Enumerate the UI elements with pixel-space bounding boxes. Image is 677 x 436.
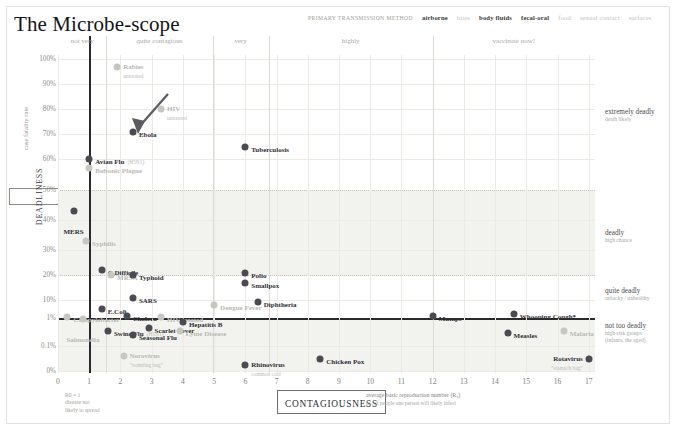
data-point-smallpox[interactable] xyxy=(242,279,249,286)
data-point-tuberculosis[interactable] xyxy=(242,143,249,150)
gridline-vertical xyxy=(339,55,340,373)
data-point-mumps[interactable] xyxy=(429,312,436,319)
data-point-rabies[interactable] xyxy=(114,63,121,70)
data-point-sars[interactable] xyxy=(129,294,136,301)
gridline-horizontal xyxy=(58,250,595,251)
data-label-syphilis: Syphilis xyxy=(92,232,116,250)
gridline-vertical xyxy=(464,55,465,373)
y-tick-label: 60% xyxy=(22,155,56,163)
legend-item-bites[interactable]: bites xyxy=(457,14,470,21)
y-tick-label: 0% xyxy=(22,367,56,375)
gridline-horizontal xyxy=(58,220,595,221)
data-label-name: Salmonella xyxy=(66,336,99,344)
gridline-vertical xyxy=(308,55,309,373)
data-point-norovirus[interactable] xyxy=(120,353,127,360)
legend-item-airborne[interactable]: airborne xyxy=(422,14,448,21)
deadliness-annotation-1: deadlyhigh chance xyxy=(605,229,632,244)
x-tick-label: 17 xyxy=(581,377,597,386)
ebola-pointer-arrow xyxy=(128,90,174,140)
data-label-name: Syphilis xyxy=(92,240,116,248)
x-tick-label: 9 xyxy=(331,377,347,386)
y-tick-label: 20% xyxy=(22,271,56,279)
data-label-name: MERS xyxy=(63,228,83,236)
legend-item-fecal-oral[interactable]: fecal-oral xyxy=(521,14,549,21)
contagiousness-band-label-2: very xyxy=(213,37,269,45)
y-axis-title: case fatality rate xyxy=(22,107,29,150)
x-tick-label: 1 xyxy=(81,377,97,386)
data-point-seasonal-flu[interactable] xyxy=(129,331,136,338)
deadliness-annotation-sub: high-risk groups(infants, the aged) xyxy=(605,330,646,344)
y-tick-label: 100% xyxy=(22,55,56,63)
legend-item-food[interactable]: food xyxy=(558,14,571,21)
data-label-typhoid: Typhoid xyxy=(139,266,164,284)
data-point-cholera[interactable] xyxy=(123,312,130,319)
data-point-polio[interactable] xyxy=(242,269,249,276)
y-tick-label: 80% xyxy=(22,105,56,113)
deadliness-annotation-sub: unlucky / unhealthy xyxy=(605,295,649,302)
x-axis-note-line1: average basic reproduction number (R₀) xyxy=(366,392,460,400)
data-point-campylobacter[interactable] xyxy=(64,313,71,320)
data-label-name: Typhoid xyxy=(139,274,164,282)
data-label-measles: Measles xyxy=(514,324,538,342)
y-tick-label: 70% xyxy=(22,130,56,138)
data-label-rotavirus: Rotavirus"stomach bug" xyxy=(551,347,583,371)
deadliness-annotation-label: not too deadly xyxy=(605,322,646,330)
contagiousness-band-label-3: highly xyxy=(269,37,433,45)
data-label-name: Chicken Pox xyxy=(326,358,364,366)
data-point-mrsa[interactable] xyxy=(108,272,115,279)
data-point-measles[interactable] xyxy=(504,329,511,336)
y-tick-label: 10% xyxy=(22,296,56,304)
gridline-vertical xyxy=(370,55,371,373)
legend-item-surfaces[interactable]: surfaces xyxy=(629,14,652,21)
data-label-name: Lyme Disease xyxy=(186,330,227,338)
data-point-c-difficile[interactable] xyxy=(98,267,105,274)
data-label-name: Rotavirus xyxy=(553,355,583,363)
data-label-bubonic-plague: Bubonic Plague xyxy=(95,159,142,177)
data-point-chicken-pox[interactable] xyxy=(317,356,324,363)
x-tick-label: 13 xyxy=(456,377,472,386)
data-label-name: Smallpox xyxy=(251,282,279,290)
contagiousness-band-label-0: not very xyxy=(58,37,106,45)
data-label-seasonal-flu: Seasonal Flu xyxy=(139,326,177,344)
transmission-legend: PRIMARY TRANSMISSION METHOD airbornebite… xyxy=(308,14,651,26)
data-label-smallpox: Smallpox xyxy=(251,274,279,292)
data-point-typhoid[interactable] xyxy=(129,272,136,279)
data-label-name: Tuberculosis xyxy=(251,146,289,154)
data-point-salmonella[interactable] xyxy=(79,316,86,323)
x-axis-note: average basic reproduction number (R₀) n… xyxy=(366,392,460,407)
deadliness-annotation-3: not too deadlyhigh-risk groups(infants, … xyxy=(605,322,646,344)
data-label-name: Rhinovirus xyxy=(251,361,284,369)
data-point-malaria[interactable] xyxy=(560,327,567,334)
data-point-rhinovirus[interactable] xyxy=(242,362,249,369)
data-point-rotavirus[interactable] xyxy=(585,356,592,363)
data-label-diphtheria: Diphtheria xyxy=(264,293,297,311)
data-label-chicken-pox: Chicken Pox xyxy=(326,350,364,368)
data-point-diphtheria[interactable] xyxy=(254,298,261,305)
data-label-sub: untreated xyxy=(123,72,143,78)
data-point-lyme-disease[interactable] xyxy=(176,327,183,334)
x-tick-label: 16 xyxy=(550,377,566,386)
data-label-name: Bubonic Plague xyxy=(95,167,142,175)
data-point-syphilis[interactable] xyxy=(83,238,90,245)
y-tick-label: 0.1% xyxy=(22,342,56,350)
data-point-whooping-cough[interactable] xyxy=(510,311,517,318)
data-label-mumps: Mumps xyxy=(439,307,462,325)
deadliness-divider xyxy=(58,190,595,191)
x-tick-label: 2 xyxy=(112,377,128,386)
x-tick-label: 12 xyxy=(425,377,441,386)
contagiousness-band-label-1: quite contagious xyxy=(106,37,212,45)
gridline-vertical xyxy=(558,55,559,373)
r0-note-line-1: disease not xyxy=(65,399,100,406)
data-point-dengue-fever[interactable] xyxy=(211,302,218,309)
data-point-bubonic-plague[interactable] xyxy=(86,165,93,172)
legend-item-sexual-contact[interactable]: sexual contact xyxy=(580,14,620,21)
data-label-name: Whooping Cough* xyxy=(520,313,576,321)
data-label-rabies: Rabiesuntreated xyxy=(123,54,143,78)
deadliness-annotation-label: quite deadly xyxy=(605,287,649,295)
data-label-tuberculosis: Tuberculosis xyxy=(251,138,289,156)
data-point-swine-flu[interactable] xyxy=(104,327,111,334)
data-point-mers[interactable] xyxy=(70,208,77,215)
legend-item-body-fluids[interactable]: body fluids xyxy=(479,14,512,21)
data-point-avian-flu[interactable] xyxy=(86,156,93,163)
x-axis-note-line2: no. of people one person will likely inf… xyxy=(366,400,460,407)
